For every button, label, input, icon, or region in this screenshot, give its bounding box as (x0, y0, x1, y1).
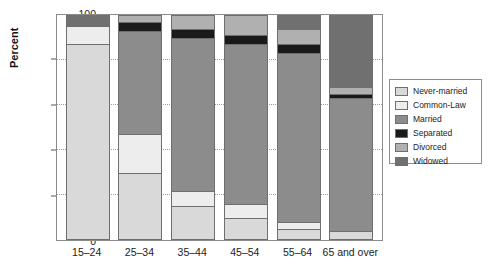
bar-segment[interactable] (171, 15, 215, 29)
bar-segment[interactable] (171, 206, 215, 240)
legend-item[interactable]: Never-married (395, 85, 481, 98)
legend-item-label: Common-Law (413, 101, 466, 110)
bar-segment[interactable] (171, 29, 215, 38)
legend-item-label: Widowed (413, 157, 448, 166)
x-axis-tick-label: 45–54 (230, 246, 259, 258)
legend-item[interactable]: Common-Law (395, 99, 481, 112)
bar-segment[interactable] (118, 134, 162, 172)
legend-swatch-icon (395, 87, 408, 96)
bar-segment[interactable] (224, 44, 268, 204)
bar-segment[interactable] (329, 98, 373, 231)
bar-column[interactable] (66, 15, 110, 240)
bar-segment[interactable] (118, 22, 162, 31)
legend: Never-marriedCommon-LawMarriedSeparatedD… (389, 79, 482, 164)
bar-segment[interactable] (118, 173, 162, 241)
bar-segment[interactable] (66, 26, 110, 44)
bar-segment[interactable] (66, 44, 110, 240)
plot-inner (57, 15, 382, 240)
legend-item-label: Divorced (413, 143, 447, 152)
bar-segment[interactable] (171, 191, 215, 207)
bar-segment[interactable] (66, 15, 110, 26)
legend-item[interactable]: Widowed (395, 155, 481, 168)
legend-item[interactable]: Married (395, 113, 481, 126)
bar-segment[interactable] (118, 31, 162, 135)
legend-swatch-icon (395, 115, 408, 124)
legend-item-label: Married (413, 115, 442, 124)
bar-segment[interactable] (277, 15, 321, 29)
bar-column[interactable] (118, 15, 162, 240)
bar-segment[interactable] (329, 94, 373, 99)
legend-item[interactable]: Divorced (395, 141, 481, 154)
bar-segment[interactable] (118, 15, 162, 22)
bar-segment[interactable] (224, 218, 268, 241)
x-axis-tick-label: 25–34 (125, 246, 154, 258)
bar-segment[interactable] (329, 231, 373, 240)
bar-segment[interactable] (277, 222, 321, 229)
legend-swatch-icon (395, 157, 408, 166)
legend-item-label: Never-married (413, 87, 467, 96)
bar-segment[interactable] (224, 204, 268, 218)
bar-segment[interactable] (171, 38, 215, 191)
bar-segment[interactable] (224, 35, 268, 44)
x-axis-tick-label: 35–44 (178, 246, 207, 258)
x-axis-tick-label: 65 and over (323, 246, 378, 258)
x-axis-tick-label: 55–64 (283, 246, 312, 258)
legend-item-label: Separated (413, 129, 452, 138)
bar-segment[interactable] (277, 53, 321, 222)
legend-swatch-icon (395, 101, 408, 110)
bar-segment[interactable] (224, 15, 268, 35)
x-axis-tick-label: 15–24 (72, 246, 101, 258)
bar-column[interactable] (329, 15, 373, 240)
bar-column[interactable] (171, 15, 215, 240)
y-axis-title: Percent (8, 12, 26, 68)
bar-segment[interactable] (277, 29, 321, 45)
legend-swatch-icon (395, 143, 408, 152)
bar-segment[interactable] (329, 15, 373, 87)
plot-area (56, 14, 383, 241)
bar-column[interactable] (277, 15, 321, 240)
legend-swatch-icon (395, 129, 408, 138)
bar-segment[interactable] (277, 44, 321, 53)
stacked-bar-chart: Percent 020406080100 15–2425–3435–4445–5… (0, 0, 488, 270)
bar-segment[interactable] (329, 87, 373, 94)
bar-segment[interactable] (277, 229, 321, 240)
legend-item[interactable]: Separated (395, 127, 481, 140)
bar-column[interactable] (224, 15, 268, 240)
